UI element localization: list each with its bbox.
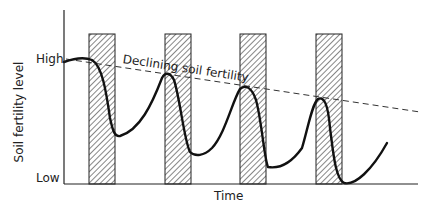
x-axis-label: Time: [214, 189, 243, 203]
fertility-diagram: [0, 0, 433, 211]
y-high-label: High: [36, 52, 64, 66]
y-low-label: Low: [36, 171, 60, 185]
y-axis-label: Soil fertility level: [12, 57, 26, 167]
